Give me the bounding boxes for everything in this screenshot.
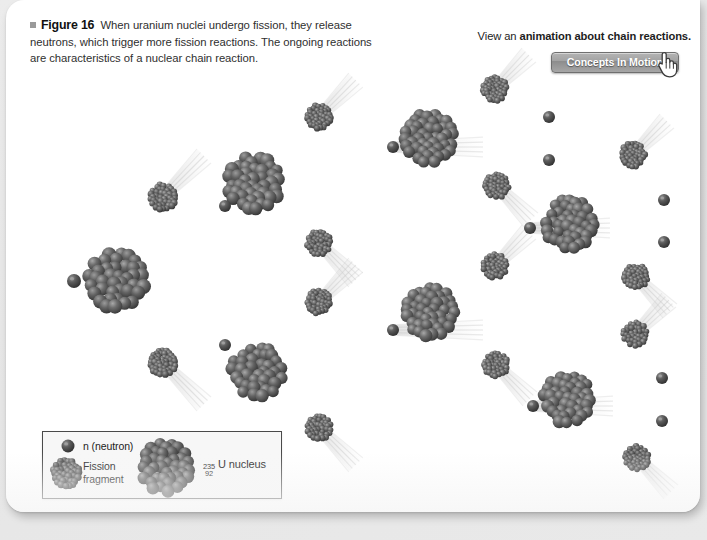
fission-fragment (621, 263, 650, 291)
uranium-nucleus (540, 194, 600, 253)
particle-layer (67, 74, 670, 472)
concepts-in-motion-button[interactable]: Concepts In Motion (551, 52, 679, 73)
neutron (219, 200, 231, 212)
animation-note: View an animation about chain reactions. (478, 30, 691, 42)
uranium-nucleus (399, 109, 459, 168)
legend-uranium-text: U nucleus (218, 458, 266, 470)
figure-label: Figure 16 (41, 18, 94, 32)
neutron (67, 274, 81, 288)
neutron (658, 194, 670, 206)
legend-fragment-line1: Fission (83, 460, 116, 472)
legend-fission-fragment-icon (50, 457, 82, 489)
fission-fragment (620, 320, 649, 349)
neutron (656, 415, 668, 427)
neutron (219, 339, 231, 351)
animation-note-prefix: View an (478, 30, 520, 42)
figure-caption: Figure 16 When uranium nuclei undergo fi… (30, 17, 390, 67)
legend-fragment-line2: fragment (83, 473, 124, 485)
caption-bullet-icon (30, 22, 36, 28)
uranium-atomic-number: 92 (205, 467, 213, 480)
legend-fragment-label: Fission fragment (83, 460, 124, 486)
neutron (543, 154, 555, 166)
neutron (527, 400, 539, 412)
fission-fragment (622, 443, 651, 472)
screenshot-root: Figure 16 When uranium nuclei undergo fi… (0, 0, 707, 540)
legend-uranium-label: 235 92 U nucleus (203, 458, 266, 471)
uranium-nucleus (225, 342, 287, 402)
uranium-nucleus (222, 151, 285, 215)
figure-page-card: Figure 16 When uranium nuclei undergo fi… (6, 0, 700, 512)
legend: n (neutron) Fission fragment 235 92 U nu… (42, 431, 282, 499)
neutron (387, 141, 399, 153)
neutron (656, 372, 668, 384)
legend-neutron-icon (62, 440, 75, 453)
legend-uranium-nucleus-icon (136, 438, 195, 498)
fission-fragment (304, 288, 333, 317)
neutron (658, 236, 670, 248)
neutron (524, 222, 536, 234)
uranium-nucleus (538, 370, 597, 428)
neutron (387, 324, 399, 336)
animation-note-emphasis: animation about chain reactions. (520, 30, 691, 42)
uranium-nucleus (82, 247, 151, 314)
neutron (543, 111, 555, 123)
legend-neutron-label: n (neutron) (83, 440, 133, 453)
